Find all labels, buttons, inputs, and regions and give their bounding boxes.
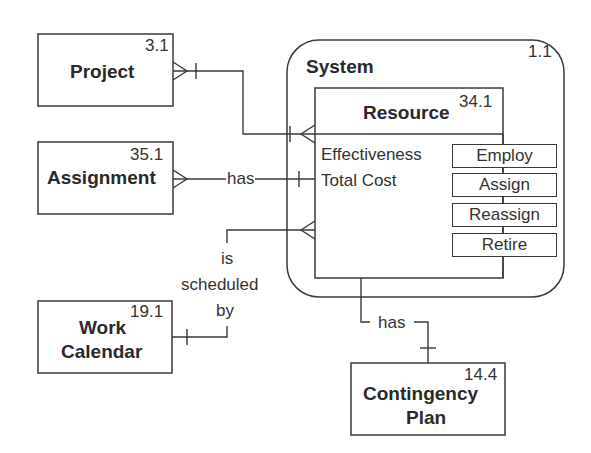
relationship-label-has-assignment: has xyxy=(226,170,255,187)
work-calendar-title-line1: Work xyxy=(79,318,126,337)
project-title: Project xyxy=(70,62,134,81)
connector-contingency-lower xyxy=(414,322,428,363)
operation-reassign-button[interactable]: Reassign xyxy=(452,203,557,227)
relationship-label-has-contingency: has xyxy=(377,314,406,331)
work-calendar-id: 19.1 xyxy=(130,303,163,320)
relationship-label-scheduled: scheduled xyxy=(180,276,260,293)
work-calendar-title-line2: Calendar xyxy=(61,342,142,361)
system-id: 1.1 xyxy=(528,43,552,60)
system-title: System xyxy=(306,57,374,76)
contingency-plan-title-line2: Plan xyxy=(406,408,446,427)
contingency-plan-id: 14.4 xyxy=(464,366,497,383)
resource-id: 34.1 xyxy=(459,93,492,110)
relationship-label-is: is xyxy=(220,250,234,267)
resource-title: Resource xyxy=(363,103,450,122)
operation-retire-button[interactable]: Retire xyxy=(452,233,557,257)
contingency-plan-title-line1: Contingency xyxy=(363,384,478,403)
operation-employ-button[interactable]: Employ xyxy=(452,144,557,168)
project-id: 3.1 xyxy=(145,37,169,54)
connector-workcalendar-lower xyxy=(172,326,227,337)
resource-attribute-total-cost: Total Cost xyxy=(321,172,397,189)
assignment-id: 35.1 xyxy=(130,146,163,163)
operation-assign-button[interactable]: Assign xyxy=(452,173,557,197)
relationship-label-by: by xyxy=(215,302,235,319)
assignment-title: Assignment xyxy=(47,168,156,187)
resource-attribute-effectiveness: Effectiveness xyxy=(321,146,422,163)
